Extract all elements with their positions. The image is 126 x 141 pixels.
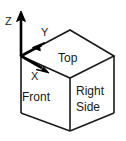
face-label-right-side-line2: Side bbox=[76, 101, 100, 113]
axis-label-x: X bbox=[31, 71, 38, 82]
isometric-cube-diagram: Z Y X Top Front Right Side bbox=[0, 0, 126, 141]
axis-arrow-z bbox=[17, 11, 26, 56]
axis-label-y: Y bbox=[41, 27, 48, 38]
cube-edge-bottom-right bbox=[70, 113, 114, 131]
axis-label-z: Z bbox=[5, 16, 12, 27]
diagram-canvas bbox=[0, 0, 126, 141]
face-label-top: Top bbox=[58, 52, 77, 64]
axis-arrow-y bbox=[21, 43, 45, 57]
cube-edge-bottom-left bbox=[21, 113, 70, 131]
face-label-front: Front bbox=[22, 91, 50, 103]
face-label-right-side-line1: Right bbox=[76, 85, 104, 97]
